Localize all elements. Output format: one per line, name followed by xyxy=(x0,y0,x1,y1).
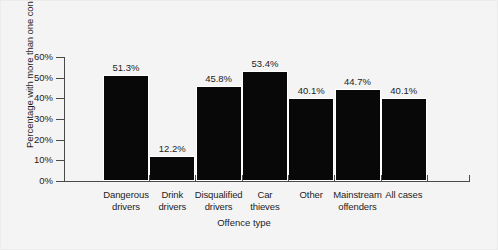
bar-value-label: 40.1% xyxy=(375,85,433,96)
y-axis-tick-label: 20% xyxy=(7,134,53,145)
x-axis-tick xyxy=(334,175,335,182)
category-label-line: All cases xyxy=(371,189,437,201)
x-axis-title-text: Offence type xyxy=(217,217,271,228)
x-axis-line xyxy=(64,181,470,182)
bar-group[interactable]: 40.1% xyxy=(381,57,427,181)
bar-value-label: 51.3% xyxy=(97,62,155,73)
x-axis-tick xyxy=(427,175,428,182)
category-label-line: thieves xyxy=(232,201,298,213)
bar-value-label: 45.8% xyxy=(190,73,248,84)
y-axis-tick-label: 10% xyxy=(7,154,53,165)
bar[interactable] xyxy=(288,98,334,181)
bar-group[interactable]: 12.2% xyxy=(149,57,195,181)
bar-group[interactable]: 45.8% xyxy=(196,57,242,181)
x-axis-tick xyxy=(242,175,243,182)
bar-value-label: 12.2% xyxy=(143,143,201,154)
bar[interactable] xyxy=(381,98,427,181)
plot-area: 51.3%12.2%45.8%53.4%40.1%44.7%40.1% xyxy=(64,57,470,181)
category-label-line: offenders xyxy=(325,201,391,213)
x-axis-title: Offence type xyxy=(1,217,498,228)
bar-chart-figure: Percentage with more than one conviction… xyxy=(0,0,498,250)
bar[interactable] xyxy=(242,71,288,181)
y-axis-tick xyxy=(56,181,65,182)
y-axis-tick-label: 0% xyxy=(7,175,53,186)
bar[interactable] xyxy=(335,89,381,181)
y-axis-tick-label: 60% xyxy=(7,51,53,62)
bar-group[interactable]: 44.7% xyxy=(335,57,381,181)
x-axis-category-label: All cases xyxy=(371,189,437,201)
x-axis-tick xyxy=(288,175,289,182)
bar[interactable] xyxy=(196,86,242,181)
bar[interactable] xyxy=(149,156,195,181)
x-axis-tick xyxy=(149,175,150,182)
y-axis-tick-label: 40% xyxy=(7,92,53,103)
y-axis-tick-label: 30% xyxy=(7,113,53,124)
y-axis-tick-label: 50% xyxy=(7,72,53,83)
bar-group[interactable]: 53.4% xyxy=(242,57,288,181)
bar-group[interactable]: 40.1% xyxy=(288,57,334,181)
x-axis-tick xyxy=(195,175,196,182)
bar-value-label: 40.1% xyxy=(282,85,340,96)
bar[interactable] xyxy=(103,75,149,181)
bar-group[interactable]: 51.3% xyxy=(103,57,149,181)
x-axis-tick xyxy=(381,175,382,182)
bar-value-label: 53.4% xyxy=(236,58,294,69)
